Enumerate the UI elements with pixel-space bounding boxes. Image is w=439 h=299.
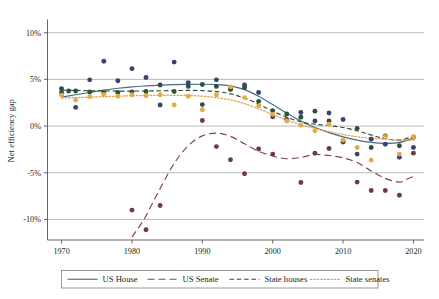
data-point	[87, 94, 92, 99]
data-point	[411, 134, 416, 139]
data-point	[355, 180, 360, 185]
data-point	[383, 188, 388, 193]
data-point	[200, 107, 205, 112]
y-tick-label: 10%	[26, 29, 41, 38]
data-point	[186, 84, 191, 89]
data-point	[341, 138, 346, 143]
data-point	[397, 193, 402, 198]
data-point	[242, 85, 247, 90]
data-point	[73, 105, 78, 110]
data-point	[59, 93, 64, 98]
data-point	[383, 134, 388, 139]
data-point	[327, 122, 332, 127]
data-point	[228, 157, 233, 162]
y-axis-title-group: Net efficiency gap	[6, 99, 16, 162]
data-point	[327, 111, 332, 116]
data-point	[270, 112, 275, 117]
x-tick-label: 1970	[53, 247, 69, 256]
data-point	[256, 90, 261, 95]
data-point	[214, 77, 219, 82]
data-point	[130, 92, 135, 97]
net-efficiency-gap-chart: 10%5%0%-5%-10%197019801990200020102020 N…	[0, 0, 439, 299]
data-point	[341, 117, 346, 122]
data-point	[144, 75, 149, 80]
data-point	[73, 97, 78, 102]
legend-label: US Senate	[183, 274, 219, 284]
chart-figure: 10%5%0%-5%-10%197019801990200020102020 N…	[0, 0, 439, 299]
data-point	[200, 102, 205, 107]
data-point	[144, 93, 149, 98]
data-point	[59, 86, 64, 91]
data-point	[228, 84, 233, 89]
data-point	[101, 92, 106, 97]
x-tick-label: 2000	[265, 247, 281, 256]
data-point	[411, 145, 416, 150]
data-point	[369, 158, 374, 163]
data-point	[284, 119, 289, 124]
data-point	[355, 152, 360, 157]
data-point	[200, 82, 205, 87]
data-point	[172, 103, 177, 108]
data-point	[186, 94, 191, 99]
y-tick-label: 0%	[30, 122, 41, 131]
data-point	[172, 60, 177, 65]
data-point	[158, 92, 163, 97]
data-point	[327, 146, 332, 151]
data-point	[115, 94, 120, 99]
data-point	[369, 145, 374, 150]
data-point	[270, 152, 275, 157]
data-point	[115, 78, 120, 83]
data-point	[172, 89, 177, 94]
data-point	[158, 83, 163, 88]
data-point	[256, 104, 261, 109]
data-point	[130, 208, 135, 213]
data-point	[242, 171, 247, 176]
y-tick-label: -10%	[23, 215, 41, 224]
data-point	[298, 110, 303, 115]
data-point	[298, 123, 303, 128]
data-point	[200, 118, 205, 123]
data-point	[312, 109, 317, 114]
data-point	[369, 188, 374, 193]
x-tick-label: 2020	[405, 247, 421, 256]
data-point	[214, 84, 219, 89]
y-tick-label: 5%	[30, 75, 41, 84]
data-point	[383, 142, 388, 147]
data-point	[355, 145, 360, 150]
data-point	[312, 119, 317, 124]
y-tick-label: -5%	[27, 169, 41, 178]
legend-label: State houses	[265, 274, 308, 284]
data-point	[87, 77, 92, 82]
data-point	[144, 89, 149, 94]
data-point	[397, 152, 402, 157]
data-point	[411, 151, 416, 156]
data-point	[256, 147, 261, 152]
data-point	[312, 128, 317, 133]
data-point	[312, 151, 317, 156]
data-point	[242, 95, 247, 100]
data-point	[158, 203, 163, 208]
chart-legend[interactable]: US HouseUS SenateState housesState senat…	[62, 271, 391, 289]
data-point	[397, 143, 402, 148]
data-point	[214, 144, 219, 149]
data-point	[73, 89, 78, 94]
data-point	[144, 227, 149, 232]
data-point	[298, 180, 303, 185]
data-point	[101, 59, 106, 64]
data-point	[284, 111, 289, 116]
x-tick-label: 1990	[194, 247, 210, 256]
data-point	[214, 92, 219, 97]
y-axis-title: Net efficiency gap	[6, 99, 16, 162]
legend-label: State senates	[346, 274, 391, 284]
data-point	[298, 115, 303, 120]
data-point	[256, 99, 261, 104]
data-point	[369, 137, 374, 142]
data-point	[355, 126, 360, 131]
legend-label: US House	[103, 274, 138, 284]
data-point	[87, 90, 92, 95]
x-tick-label: 2010	[335, 247, 351, 256]
data-point	[158, 103, 163, 108]
data-point	[66, 89, 71, 94]
x-tick-label: 1980	[124, 247, 140, 256]
data-point	[130, 66, 135, 71]
